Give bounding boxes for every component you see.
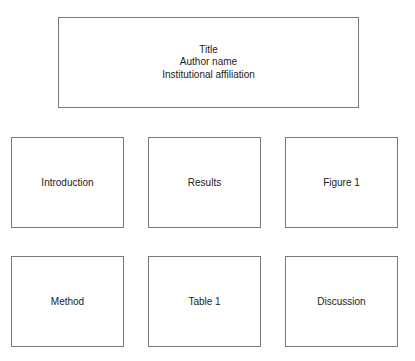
results-label: Results bbox=[188, 177, 221, 188]
poster-header-box: Title Author name Institutional affiliat… bbox=[58, 17, 359, 108]
institutional-affiliation: Institutional affiliation bbox=[162, 69, 255, 82]
table-1-box: Table 1 bbox=[148, 256, 261, 347]
discussion-label: Discussion bbox=[317, 296, 365, 307]
discussion-box: Discussion bbox=[285, 256, 398, 347]
table-1-label: Table 1 bbox=[188, 296, 220, 307]
author-name: Author name bbox=[180, 56, 237, 69]
figure-1-label: Figure 1 bbox=[323, 177, 360, 188]
introduction-label: Introduction bbox=[41, 177, 93, 188]
method-box: Method bbox=[11, 256, 124, 347]
figure-1-box: Figure 1 bbox=[285, 137, 398, 228]
method-label: Method bbox=[51, 296, 84, 307]
poster-title: Title bbox=[199, 44, 218, 57]
introduction-box: Introduction bbox=[11, 137, 124, 228]
results-box: Results bbox=[148, 137, 261, 228]
